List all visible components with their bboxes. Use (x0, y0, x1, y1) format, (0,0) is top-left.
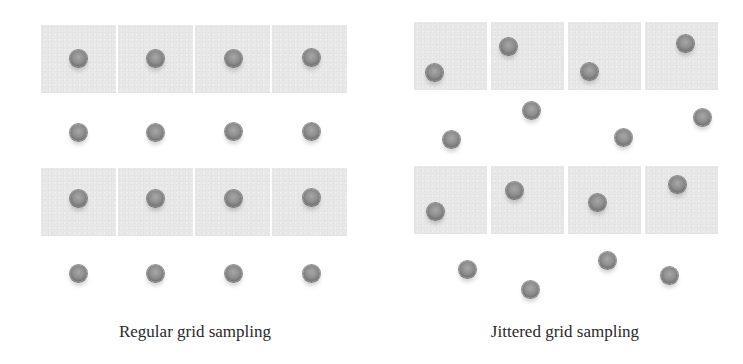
jittered-sample-point (661, 267, 678, 284)
jittered-stratum-cell (491, 166, 564, 234)
jittered-stratum-cell (645, 22, 718, 90)
jittered-sample-point (599, 252, 616, 269)
jittered-stratum-cell (414, 166, 487, 234)
jittered-sample-point (500, 38, 517, 55)
jittered-sample-point (443, 131, 460, 148)
jittered-sample-point (694, 109, 711, 126)
jittered-sample-point (426, 64, 443, 81)
jittered-stratum-cell (568, 22, 641, 90)
jittered-sample-point (459, 261, 476, 278)
jittered-sample-point (522, 281, 539, 298)
jittered-sample-point (581, 63, 598, 80)
jittered-stratum-cell (491, 22, 564, 90)
jittered-sample-point (523, 102, 540, 119)
jittered-sample-point (669, 176, 686, 193)
jittered-sample-point (589, 194, 606, 211)
jittered-stratum-cell (414, 22, 487, 90)
jittered-sample-point (427, 203, 444, 220)
jittered-sample-point (615, 129, 632, 146)
regular-grid-caption: Regular grid sampling (60, 322, 330, 342)
jittered-sample-point (677, 35, 694, 52)
jittered-grid-caption: Jittered grid sampling (430, 322, 700, 342)
jittered-sample-point (506, 182, 523, 199)
jittered-grid-panel (0, 0, 743, 364)
